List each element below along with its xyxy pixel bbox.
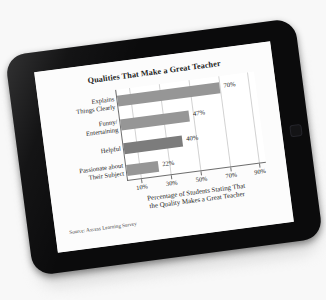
x-tick-label: 70% (225, 171, 237, 179)
bar-value-label: 47% (192, 108, 205, 117)
bar-value-label: 70% (223, 80, 236, 89)
category-axis: Explains Things Clearly Funny/ Entertain… (38, 90, 125, 191)
tablet-device: Qualities That Make a Great Teacher Expl… (5, 18, 323, 276)
x-tick-label: 10% (136, 182, 148, 190)
bar-value-label: 22% (162, 159, 175, 168)
gridline (218, 76, 231, 167)
bar-explains-things-clearly[interactable] (117, 82, 221, 106)
x-tick-label: 50% (195, 175, 207, 183)
x-tick-label: 90% (254, 167, 266, 175)
bar-funny-entertaining[interactable] (120, 110, 190, 130)
chart-source: Source: Axcess Learning Survey (69, 220, 137, 235)
bar-passionate-about-their-subject[interactable] (126, 161, 159, 176)
home-button-icon[interactable] (289, 124, 302, 137)
tablet-screen[interactable]: Qualities That Make a Great Teacher Expl… (34, 41, 294, 253)
document-page: Qualities That Make a Great Teacher Expl… (34, 41, 294, 253)
x-tick-label: 30% (166, 179, 178, 187)
category-label-line: Helpful (100, 145, 121, 155)
bar-helpful[interactable] (123, 136, 183, 155)
screenshot-stage: Qualities That Make a Great Teacher Expl… (0, 0, 326, 300)
gridline (247, 72, 260, 163)
plot-area: 70% 47% 40% 22% (115, 72, 266, 181)
